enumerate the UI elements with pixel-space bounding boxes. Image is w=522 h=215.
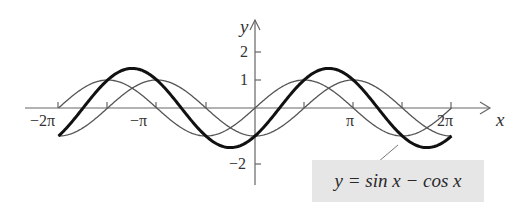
ytick-label-1: 1	[240, 71, 248, 88]
ytick-label-neg2: −2	[229, 155, 246, 172]
equation-label: y = sin x − cos x	[335, 170, 462, 192]
xtick-label-neg2pi: −2π	[30, 112, 55, 129]
xtick-label-negpi: −π	[130, 112, 147, 129]
y-axis-label: y	[238, 16, 249, 37]
x-axis-label: x	[495, 109, 505, 130]
xtick-label-2pi: 2π	[437, 112, 453, 129]
xtick-label-pi: π	[346, 112, 354, 129]
ytick-label-2: 2	[240, 43, 248, 60]
equation-label-box: y = sin x − cos x	[312, 160, 484, 202]
